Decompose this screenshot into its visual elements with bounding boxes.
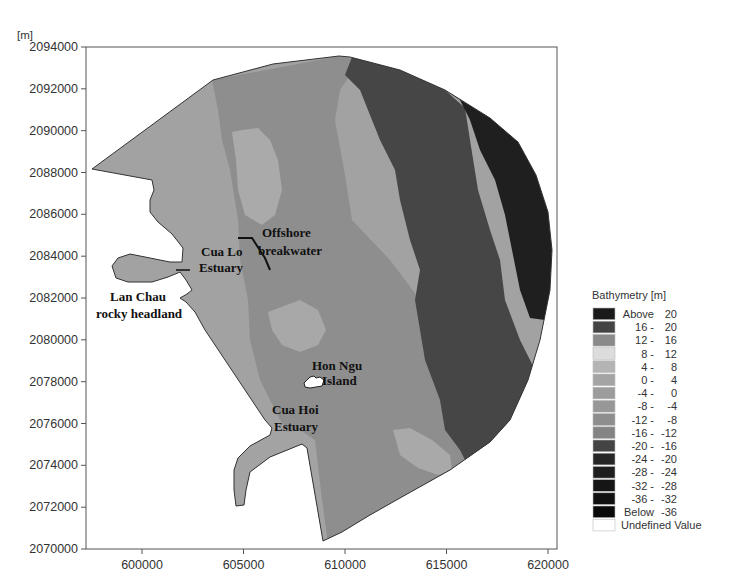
legend-label-from: -36 - <box>631 493 654 505</box>
x-tick-label: 600000 <box>121 558 163 572</box>
legend-swatch <box>593 480 615 492</box>
y-tick-label: 2080000 <box>29 333 78 347</box>
y-tick-label: 2082000 <box>29 291 78 305</box>
legend-swatch <box>593 321 615 333</box>
legend-label-from: -24 - <box>631 453 654 465</box>
legend-swatch <box>593 466 615 478</box>
annotation-hon-ngu-line1: Hon Ngu <box>312 358 362 373</box>
y-tick-label: 2076000 <box>29 417 78 431</box>
annotation-cua-lo-line2: Estuary <box>199 260 244 275</box>
bathymetry-figure: [m] Offshore breakwater Cua Lo Estuary L… <box>0 0 729 588</box>
annotation-offshore-line2: breakwater <box>258 243 322 258</box>
legend-swatch <box>593 308 615 320</box>
x-tick-labels: 600000 605000 610000 615000 620000 <box>121 558 569 572</box>
legend-label-to: 8 <box>671 361 677 373</box>
y-tick-label: 2070000 <box>29 542 78 556</box>
legend-label-from: -4 - <box>638 387 655 399</box>
legend-swatch <box>593 387 615 399</box>
legend-swatch <box>593 414 615 426</box>
legend-title: Bathymetry [m] <box>592 289 666 301</box>
x-tick-label: 605000 <box>223 558 265 572</box>
legend-label-to: -12 <box>661 427 677 439</box>
legend-swatch <box>593 374 615 386</box>
legend-label-to: -32 <box>661 493 677 505</box>
legend-label-to: 20 <box>665 308 677 320</box>
y-tick-label: 2086000 <box>29 207 78 221</box>
y-tick-label: 2092000 <box>29 82 78 96</box>
legend-label-from: Above <box>623 308 654 320</box>
legend-label-from: -28 - <box>631 466 654 478</box>
legend-label-to: 0 <box>671 387 677 399</box>
legend-swatch <box>593 440 615 452</box>
x-axis <box>142 549 548 554</box>
legend-label-from: -12 - <box>631 414 654 426</box>
legend-label-from: Below <box>624 506 654 518</box>
annotation-hon-ngu-line2: Island <box>322 373 357 388</box>
legend-label-to: -24 <box>661 466 677 478</box>
legend-label-from: -16 - <box>631 427 654 439</box>
legend-label-to: -36 <box>661 506 677 518</box>
legend-label-to: 4 <box>671 374 677 386</box>
legend-label-from: 12 - <box>635 334 654 346</box>
legend-label-from: 8 - <box>641 348 654 360</box>
y-axis <box>81 47 86 549</box>
legend-label-to: 12 <box>665 348 677 360</box>
annotation-lan-chau-line1: Lan Chau <box>110 289 166 304</box>
legend-label-from: -32 - <box>631 480 654 492</box>
legend-label-from: -20 - <box>631 440 654 452</box>
legend-label-to: -20 <box>661 453 677 465</box>
y-tick-label: 2074000 <box>29 458 78 472</box>
y-tick-label: 2088000 <box>29 166 78 180</box>
y-tick-labels: 2094000 2092000 2090000 2088000 2086000 … <box>29 40 78 556</box>
legend-swatch <box>593 348 615 360</box>
legend-swatch <box>593 427 615 439</box>
legend-swatch <box>593 493 615 505</box>
x-tick-label: 610000 <box>324 558 366 572</box>
annotation-lan-chau-line2: rocky headland <box>96 306 183 321</box>
legend-label-from: 4 - <box>641 361 654 373</box>
legend-label-from: 0 - <box>641 374 654 386</box>
legend-label: Undefined Value <box>621 519 702 531</box>
legend-swatch <box>593 400 615 412</box>
y-tick-label: 2084000 <box>29 249 78 263</box>
annotation-offshore-line1: Offshore <box>262 225 311 240</box>
legend-label-to: -8 <box>667 414 677 426</box>
legend-swatch <box>593 519 615 531</box>
legend-label-to: 20 <box>665 321 677 333</box>
legend-label-from: -8 - <box>638 400 655 412</box>
y-tick-label: 2090000 <box>29 124 78 138</box>
annotation-cua-hoi-line1: Cua Hoi <box>272 402 319 417</box>
legend-swatch <box>593 361 615 373</box>
legend-label-from: 16 - <box>635 321 654 333</box>
legend-swatch <box>593 453 615 465</box>
legend-label-to: -28 <box>661 480 677 492</box>
x-tick-label: 620000 <box>527 558 569 572</box>
annotation-cua-hoi-line2: Estuary <box>274 419 319 434</box>
annotation-cua-lo-line1: Cua Lo <box>201 244 243 259</box>
legend-label-to: -4 <box>667 400 677 412</box>
x-tick-label: 615000 <box>426 558 468 572</box>
y-tick-label: 2072000 <box>29 500 78 514</box>
legend-swatch <box>593 334 615 346</box>
legend-swatch <box>593 506 615 518</box>
y-tick-label: 2094000 <box>29 40 78 54</box>
legend: Bathymetry [m] Above2016 -2012 -168 -124… <box>592 289 702 531</box>
legend-label-to: -16 <box>661 440 677 452</box>
legend-label-to: 16 <box>665 334 677 346</box>
y-tick-label: 2078000 <box>29 375 78 389</box>
